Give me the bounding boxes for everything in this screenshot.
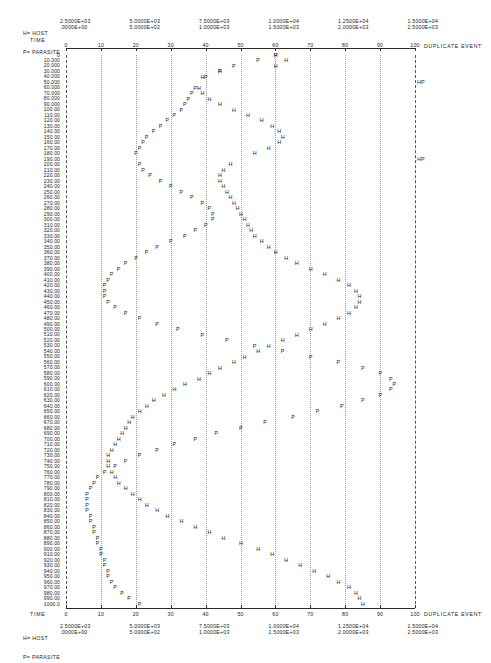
data-point-host: H bbox=[145, 404, 149, 409]
data-point-parasite: P bbox=[120, 591, 124, 596]
data-point-parasite: P bbox=[361, 398, 365, 403]
data-point-host: H bbox=[354, 305, 358, 310]
axis-tick-label: 80 bbox=[333, 611, 357, 617]
data-point-parasite: P bbox=[218, 69, 222, 74]
data-point-parasite: P bbox=[180, 190, 184, 195]
data-point-host: H bbox=[309, 267, 313, 272]
data-point-host: H bbox=[183, 382, 187, 387]
data-point-host: H bbox=[228, 162, 232, 167]
data-point-parasite: P bbox=[173, 113, 177, 118]
data-point-parasite: P bbox=[127, 596, 131, 601]
data-point-parasite: P bbox=[183, 102, 187, 107]
axis-tick bbox=[275, 48, 276, 51]
data-point-host: H bbox=[323, 272, 327, 277]
data-point-parasite: P bbox=[337, 360, 341, 365]
legend-bottom: H= HOST P= PARASITE bbox=[23, 623, 60, 663]
duplicate-event-label-top: DUPLICATE EVENT bbox=[424, 43, 482, 49]
gridline bbox=[136, 55, 137, 604]
data-point-host: H bbox=[218, 366, 222, 371]
data-point-parasite: P bbox=[201, 201, 205, 206]
scale-column: 1.5000E+042.5000E+03 bbox=[408, 623, 439, 635]
data-point-host: H bbox=[260, 239, 264, 244]
data-point-parasite: P bbox=[141, 168, 145, 173]
axis-tick bbox=[206, 48, 207, 51]
data-point-host: H bbox=[312, 569, 316, 574]
scale-parasite-value: 2.5000E+03 bbox=[408, 629, 439, 635]
data-point-host: H bbox=[117, 437, 121, 442]
axis-tick-label: 50 bbox=[229, 611, 253, 617]
data-point-parasite: P bbox=[361, 366, 365, 371]
data-point-host: H bbox=[166, 514, 170, 519]
data-point-parasite: P bbox=[281, 349, 285, 354]
axis-tick bbox=[66, 48, 67, 51]
data-point-parasite: P bbox=[141, 140, 145, 145]
axis-tick bbox=[415, 605, 416, 608]
data-point-parasite: P bbox=[274, 53, 278, 58]
axis-tick bbox=[241, 605, 242, 608]
data-point-parasite: P bbox=[113, 585, 117, 590]
data-point-host: H bbox=[270, 124, 274, 129]
data-point-parasite: P bbox=[138, 602, 142, 607]
data-point-host: H bbox=[180, 519, 184, 524]
data-point-parasite: P bbox=[138, 146, 142, 151]
data-point-parasite: P bbox=[309, 355, 313, 360]
gridline bbox=[275, 55, 276, 604]
gridline bbox=[241, 55, 242, 604]
axis-tick-label: 70 bbox=[298, 611, 322, 617]
scale-parasite-value: 5.0000E+02 bbox=[130, 24, 161, 30]
data-point-parasite: P bbox=[379, 371, 383, 376]
axis-tick bbox=[101, 605, 102, 608]
data-point-host: H bbox=[131, 492, 135, 497]
data-point-host: H bbox=[267, 245, 271, 250]
data-point-parasite: P bbox=[138, 316, 142, 321]
data-point-host: H bbox=[124, 426, 128, 431]
data-point-host: H bbox=[295, 333, 299, 338]
data-point-host: H bbox=[152, 398, 156, 403]
scale-parasite-value: 2.0000E+03 bbox=[338, 24, 369, 30]
scale-parasite-value: 2.0000E+03 bbox=[338, 629, 369, 635]
data-point-host: H bbox=[131, 415, 135, 420]
scale-parasite-value: 1.0000E+03 bbox=[199, 24, 230, 30]
scale-parasite-value: .0000E+00 bbox=[60, 629, 91, 635]
data-point-host: H bbox=[239, 541, 243, 546]
axis-tick bbox=[66, 605, 67, 608]
data-point-parasite: P bbox=[166, 118, 170, 123]
axis-line-bottom bbox=[66, 608, 415, 609]
data-point-host: H bbox=[347, 585, 351, 590]
axis-tick-label: 60 bbox=[263, 611, 287, 617]
duplicate-event-label-bottom: DUPLICATE EVENT bbox=[424, 611, 482, 617]
gridline bbox=[206, 55, 207, 604]
scale-parasite-value: 1.5000E+03 bbox=[269, 24, 300, 30]
data-point-host: H bbox=[253, 151, 257, 156]
data-point-parasite: P bbox=[159, 179, 163, 184]
scale-column: 7.5000E+031.0000E+03 bbox=[199, 18, 230, 30]
axis-tick bbox=[241, 48, 242, 51]
data-point-parasite: P bbox=[256, 58, 260, 63]
axis-tick bbox=[415, 48, 416, 51]
scale-parasite-value: 1.0000E+03 bbox=[199, 629, 230, 635]
data-point-host: H bbox=[347, 311, 351, 316]
data-point-parasite: P bbox=[204, 223, 208, 228]
axis-tick bbox=[171, 605, 172, 608]
data-point-parasite: P bbox=[379, 393, 383, 398]
data-point-host: H bbox=[256, 547, 260, 552]
data-point-parasite: P bbox=[176, 327, 180, 332]
data-point-host: H bbox=[361, 602, 365, 607]
scale-column: 1.2500E+042.0000E+03 bbox=[338, 18, 369, 30]
data-point-parasite: P bbox=[190, 195, 194, 200]
axis-tick-label: 40 bbox=[194, 42, 218, 48]
data-point-parasite: P bbox=[145, 250, 149, 255]
data-point-parasite: P bbox=[159, 124, 163, 129]
data-point-host: H bbox=[277, 140, 281, 145]
axis-tick-label: 60 bbox=[263, 42, 287, 48]
scale-parasite-value: 5.0000E+02 bbox=[130, 629, 161, 635]
data-point-host: H bbox=[221, 168, 225, 173]
data-point-parasite: P bbox=[155, 322, 159, 327]
data-point-parasite: P bbox=[291, 415, 295, 420]
data-point-host: H bbox=[242, 355, 246, 360]
data-point-host: H bbox=[270, 552, 274, 557]
scale-parasite-value: 1.5000E+03 bbox=[269, 629, 300, 635]
scale-column: 2.5000E+03.0000E+00 bbox=[60, 18, 91, 30]
data-point-host: H bbox=[267, 344, 271, 349]
data-point-parasite: P bbox=[89, 486, 93, 491]
